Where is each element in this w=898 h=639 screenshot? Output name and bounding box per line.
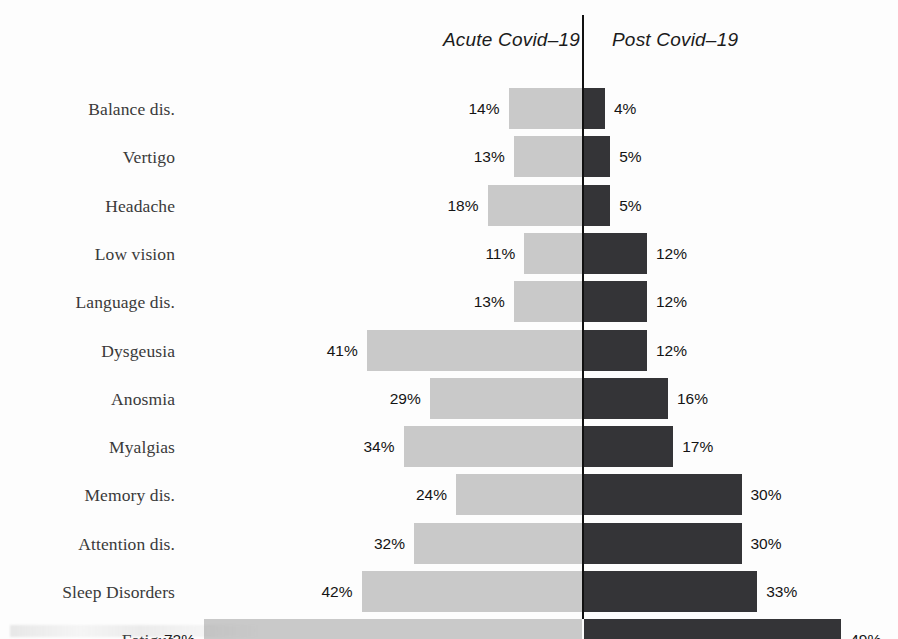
bar-post-covid (584, 136, 610, 177)
chart-row: Sleep Disorders42%33% (0, 570, 898, 614)
chart-row: Language dis.13%12% (0, 280, 898, 324)
category-label: Vertigo (123, 147, 175, 168)
chart-row: Anosmia29%16% (0, 377, 898, 421)
bar-value-post-covid: 30% (751, 486, 782, 504)
bar-value-post-covid: 17% (682, 438, 713, 456)
bar-post-covid (584, 330, 647, 371)
category-label: Attention dis. (78, 533, 175, 554)
bar-value-post-covid: 5% (619, 197, 641, 215)
bar-acute-covid (514, 136, 582, 177)
chart-row: Vertigo13%5% (0, 135, 898, 179)
bar-value-post-covid: 4% (614, 100, 636, 118)
bar-value-acute-covid: 18% (447, 197, 478, 215)
bar-post-covid (584, 426, 673, 467)
bar-rows-container: Balance dis.14%4%Vertigo13%5%Headache18%… (0, 0, 898, 639)
scan-artifact (10, 625, 260, 637)
bar-value-post-covid: 5% (619, 148, 641, 166)
chart-row: Memory dis.24%30% (0, 473, 898, 517)
bar-post-covid (584, 523, 742, 564)
bar-acute-covid (204, 619, 582, 639)
bar-value-post-covid: 30% (751, 535, 782, 553)
bar-value-acute-covid: 29% (390, 390, 421, 408)
bar-post-covid (584, 571, 757, 612)
category-label: Sleep Disorders (62, 582, 175, 603)
bar-acute-covid (488, 185, 583, 226)
chart-row: Attention dis.32%30% (0, 522, 898, 566)
bar-post-covid (584, 378, 668, 419)
bar-post-covid (584, 88, 605, 129)
bar-post-covid (584, 474, 742, 515)
bar-acute-covid (524, 233, 582, 274)
bar-value-acute-covid: 13% (474, 148, 505, 166)
bar-post-covid (584, 233, 647, 274)
chart-row: Headache18%5% (0, 184, 898, 228)
category-label: Anosmia (111, 388, 175, 409)
bar-value-acute-covid: 13% (474, 293, 505, 311)
category-label: Balance dis. (88, 99, 175, 120)
bar-value-post-covid: 49% (850, 631, 881, 639)
chart-row: Low vision11%12% (0, 232, 898, 276)
chart-row: Balance dis.14%4% (0, 87, 898, 131)
category-label: Dysgeusia (101, 340, 175, 361)
bar-value-acute-covid: 11% (485, 245, 515, 263)
bar-value-post-covid: 12% (656, 342, 687, 360)
bar-acute-covid (404, 426, 583, 467)
bar-post-covid (584, 185, 610, 226)
chart-page: Acute Covid–19 Post Covid–19 Balance dis… (0, 0, 898, 639)
bar-acute-covid (509, 88, 583, 129)
bar-acute-covid (367, 330, 582, 371)
bar-post-covid (584, 281, 647, 322)
bar-acute-covid (430, 378, 582, 419)
bar-value-post-covid: 12% (656, 245, 687, 263)
bar-value-post-covid: 12% (656, 293, 687, 311)
bar-value-acute-covid: 34% (363, 438, 394, 456)
bar-value-acute-covid: 41% (327, 342, 358, 360)
bar-value-post-covid: 16% (677, 390, 708, 408)
bar-acute-covid (514, 281, 582, 322)
bar-value-acute-covid: 32% (374, 535, 405, 553)
category-label: Headache (105, 195, 175, 216)
chart-row: Myalgias34%17% (0, 425, 898, 469)
bar-value-post-covid: 33% (766, 583, 797, 601)
bar-value-acute-covid: 14% (468, 100, 499, 118)
bar-value-acute-covid: 42% (321, 583, 352, 601)
bar-post-covid (584, 619, 841, 639)
category-label: Low vision (95, 243, 175, 264)
bar-acute-covid (362, 571, 583, 612)
category-label: Language dis. (76, 292, 175, 313)
chart-row: Dysgeusia41%12% (0, 329, 898, 373)
bar-acute-covid (456, 474, 582, 515)
bar-acute-covid (414, 523, 582, 564)
category-label: Myalgias (109, 437, 175, 458)
bar-value-acute-covid: 24% (416, 486, 447, 504)
category-label: Memory dis. (84, 485, 175, 506)
